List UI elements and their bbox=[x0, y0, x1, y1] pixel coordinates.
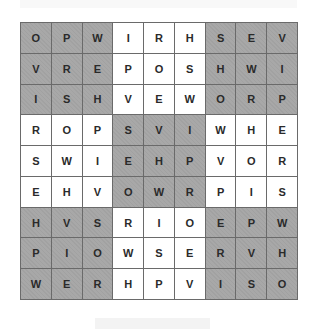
grid-cell: S bbox=[144, 238, 174, 268]
grid-cell: S bbox=[206, 23, 236, 53]
grid-cell: O bbox=[21, 23, 51, 53]
grid-cell: E bbox=[175, 238, 205, 268]
grid-cell: S bbox=[113, 115, 143, 145]
grid-cell: H bbox=[113, 269, 143, 299]
grid-cell: P bbox=[144, 269, 174, 299]
grid-cell: O bbox=[52, 115, 82, 145]
grid-cell: S bbox=[175, 54, 205, 84]
grid-cell: R bbox=[206, 238, 236, 268]
grid-cell: E bbox=[52, 269, 82, 299]
grid-cell: I bbox=[206, 269, 236, 299]
grid-cell: R bbox=[267, 146, 297, 176]
grid-cell: H bbox=[236, 115, 266, 145]
grid-cell: E bbox=[113, 146, 143, 176]
grid-cell: E bbox=[21, 177, 51, 207]
grid-cell: H bbox=[144, 146, 174, 176]
grid-cell: O bbox=[144, 54, 174, 84]
grid-cell: O bbox=[267, 269, 297, 299]
grid-cell: O bbox=[206, 85, 236, 115]
grid-cell: V bbox=[113, 85, 143, 115]
grid-cell: S bbox=[236, 269, 266, 299]
grid-cell: V bbox=[83, 177, 113, 207]
grid-cell: P bbox=[206, 177, 236, 207]
grid-cell: V bbox=[52, 208, 82, 238]
grid-cell: R bbox=[175, 177, 205, 207]
grid-cell: W bbox=[267, 208, 297, 238]
grid-cell: P bbox=[236, 208, 266, 238]
grid-cell: E bbox=[83, 54, 113, 84]
grid-cell: O bbox=[236, 146, 266, 176]
grid-cell: I bbox=[236, 177, 266, 207]
grid-cell: E bbox=[267, 115, 297, 145]
grid-cell: V bbox=[175, 269, 205, 299]
grid-cell: P bbox=[83, 115, 113, 145]
grid-cell: I bbox=[113, 23, 143, 53]
grid-cell: I bbox=[83, 146, 113, 176]
grid-cell: O bbox=[113, 177, 143, 207]
grid-cell: W bbox=[113, 238, 143, 268]
bottom-cutoff-text bbox=[95, 318, 210, 329]
grid-cell: V bbox=[236, 238, 266, 268]
top-cutoff-text bbox=[20, 0, 297, 8]
grid-cell: I bbox=[267, 54, 297, 84]
grid-cell: S bbox=[267, 177, 297, 207]
grid-cell: I bbox=[144, 208, 174, 238]
grid-cell: O bbox=[83, 238, 113, 268]
grid-cell: S bbox=[21, 146, 51, 176]
grid-cell: W bbox=[21, 269, 51, 299]
letter-grid: OPWIRHSEVVREPOSHWIISHVEWORPROPSVIWHESWIE… bbox=[20, 22, 298, 300]
grid-cell: W bbox=[144, 177, 174, 207]
grid-cell: P bbox=[21, 238, 51, 268]
grid-cell: V bbox=[21, 54, 51, 84]
grid-cell: R bbox=[144, 23, 174, 53]
grid-cell: O bbox=[175, 208, 205, 238]
grid-cell: P bbox=[267, 85, 297, 115]
grid-cell: R bbox=[83, 269, 113, 299]
grid-cell: W bbox=[206, 115, 236, 145]
grid-cell: W bbox=[52, 146, 82, 176]
grid-cell: E bbox=[236, 23, 266, 53]
grid-cell: P bbox=[113, 54, 143, 84]
grid-cell: H bbox=[175, 23, 205, 53]
grid-cell: H bbox=[83, 85, 113, 115]
grid-cell: W bbox=[175, 85, 205, 115]
grid-cell: H bbox=[267, 238, 297, 268]
grid-cell: H bbox=[52, 177, 82, 207]
grid-cell: R bbox=[21, 115, 51, 145]
grid-cell: I bbox=[21, 85, 51, 115]
grid-cell: E bbox=[144, 85, 174, 115]
grid-cell: H bbox=[206, 54, 236, 84]
grid-cell: P bbox=[175, 146, 205, 176]
grid-cell: E bbox=[206, 208, 236, 238]
grid-cell: V bbox=[267, 23, 297, 53]
grid-cell: W bbox=[83, 23, 113, 53]
grid-cell: V bbox=[144, 115, 174, 145]
grid-cell: R bbox=[113, 208, 143, 238]
grid-cell: V bbox=[206, 146, 236, 176]
grid-cell: W bbox=[236, 54, 266, 84]
grid-cell: R bbox=[236, 85, 266, 115]
grid-cell: R bbox=[52, 54, 82, 84]
grid-cell: S bbox=[52, 85, 82, 115]
grid-cell: I bbox=[52, 238, 82, 268]
grid-cell: S bbox=[83, 208, 113, 238]
grid-cell: H bbox=[21, 208, 51, 238]
grid-cell: P bbox=[52, 23, 82, 53]
grid-cell: I bbox=[175, 115, 205, 145]
